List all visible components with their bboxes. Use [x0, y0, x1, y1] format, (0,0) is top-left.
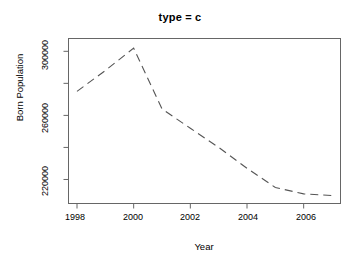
chart-root: type = c Born Population Year 220000 260…: [0, 0, 360, 268]
plot-box-frame: [69, 39, 341, 204]
y-axis-ticks: [64, 51, 69, 179]
data-series-line: [77, 48, 332, 195]
x-axis-ticks: [77, 204, 304, 209]
plot-area: [0, 0, 360, 268]
